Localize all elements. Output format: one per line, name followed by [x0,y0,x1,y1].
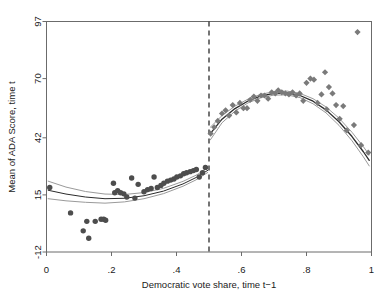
data-point [81,228,86,233]
y-tick-label: 15 [32,190,43,201]
data-point [68,210,73,215]
scatter-plot: -1215427097 0.2.4.6.81 Democratic vote s… [0,0,391,299]
y-tick-label: 42 [32,133,43,144]
data-point [47,185,52,190]
x-tick-label: .6 [238,264,246,275]
y-tick-label: -12 [32,245,43,259]
data-point [148,186,153,191]
data-point [86,236,91,241]
data-point [93,219,98,224]
chart-figure: -1215427097 0.2.4.6.81 Democratic vote s… [0,0,391,299]
data-point [124,194,129,199]
x-tick-label: .8 [303,264,311,275]
y-tick-label: 97 [32,16,43,27]
x-tick-label: .2 [108,264,116,275]
x-tick-label: 1 [369,264,374,275]
data-point [135,182,140,187]
data-point [200,170,205,175]
data-point [203,165,208,170]
data-point [197,174,202,179]
data-point [132,195,137,200]
data-point [111,181,116,186]
data-point [194,167,199,172]
data-point [129,175,134,180]
y-axis-title: Mean of ADA Score, time t [6,81,17,193]
data-point [84,219,89,224]
y-tick-label: 70 [32,73,43,84]
x-axis-title: Democratic vote share, time t−1 [142,279,276,290]
x-tick-label: 0 [44,264,49,275]
figure-background [0,0,391,299]
data-point [103,218,108,223]
data-point [151,174,156,179]
x-tick-label: .4 [173,264,181,275]
